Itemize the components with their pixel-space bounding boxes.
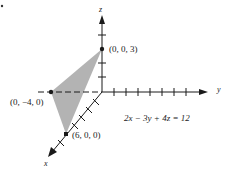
y-axis-arrow-icon <box>199 89 208 95</box>
point-label-y: (0, −4, 0) <box>10 98 44 107</box>
point-label-z: (0, 0, 3) <box>109 45 138 54</box>
corner-mark <box>1 5 3 7</box>
point-label-x: (6, 0, 0) <box>72 131 101 140</box>
point-y-intercept <box>49 90 53 94</box>
3d-plane-diagram <box>0 0 234 173</box>
x-axis-arrow-icon <box>48 147 57 157</box>
y-axis-label: y <box>217 86 221 94</box>
point-z-intercept <box>100 47 104 51</box>
point-x-intercept <box>64 132 68 136</box>
z-axis <box>98 22 106 92</box>
x-axis-label: x <box>44 160 48 168</box>
z-axis-label: z <box>99 6 102 14</box>
plane-equation: 2x − 3y + 4z = 12 <box>124 114 190 123</box>
z-axis-arrow-icon <box>99 15 105 24</box>
